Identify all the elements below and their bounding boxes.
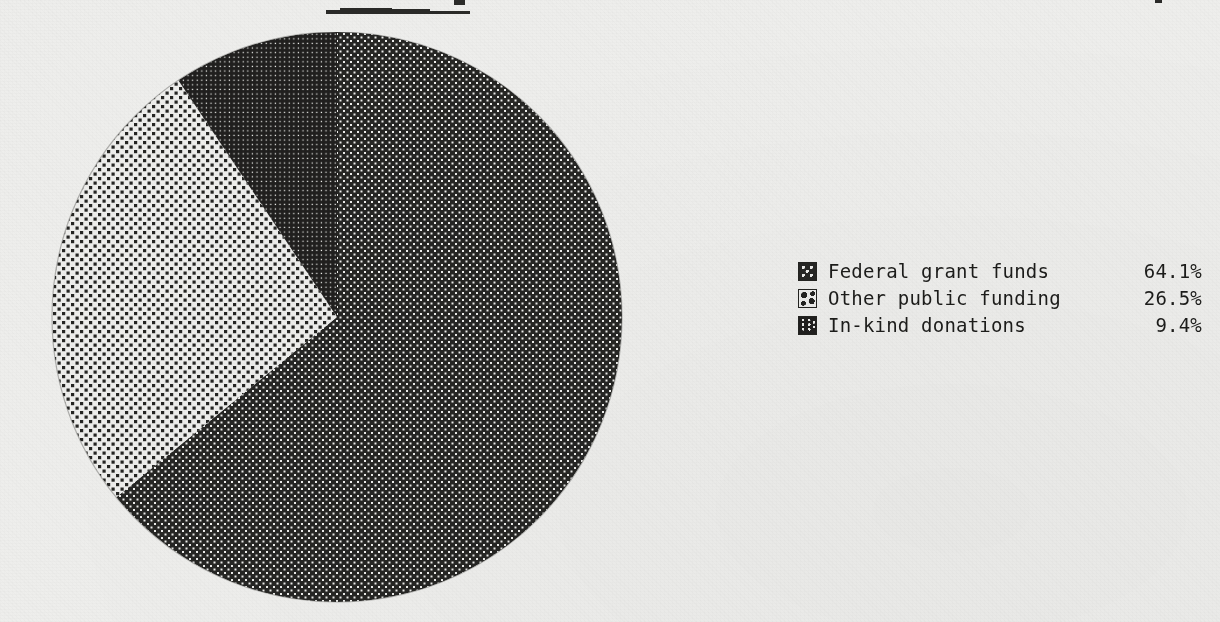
legend-row: In-kind donations 9.4% (798, 312, 1202, 339)
swatch-dense-dot-icon (798, 316, 817, 335)
legend-row: Other public funding 26.5% (798, 285, 1202, 312)
cropped-title-remnant (0, 0, 1220, 14)
legend-label: Other public funding (828, 289, 1110, 308)
pie-chart-svg (34, 32, 640, 604)
legend-value: 9.4% (1110, 316, 1202, 335)
swatch-sparse-dot-icon (798, 289, 817, 308)
legend-label: In-kind donations (828, 316, 1110, 335)
legend-value: 26.5% (1110, 289, 1202, 308)
legend-label: Federal grant funds (828, 262, 1110, 281)
legend-row: Federal grant funds 64.1% (798, 258, 1202, 285)
chart-legend: Federal grant funds 64.1% Other public f… (798, 258, 1202, 339)
legend-value: 64.1% (1110, 262, 1202, 281)
swatch-medium-dot-icon (798, 262, 817, 281)
pie-chart (34, 32, 640, 604)
